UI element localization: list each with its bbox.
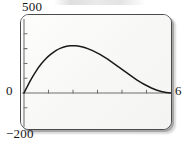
y-max-label: 500 — [22, 0, 42, 15]
plotted-curve — [24, 46, 171, 93]
origin-label: 0 — [6, 83, 13, 99]
y-min-label: −200 — [6, 126, 34, 142]
plot-canvas — [21, 15, 171, 129]
x-max-label: 6 — [175, 83, 182, 99]
plot-area — [21, 15, 171, 129]
screenshot-stage: 500 −200 0 6 — [0, 0, 189, 144]
scan-artifact — [54, 0, 146, 5]
calculator-screen-frame[interactable] — [20, 14, 172, 130]
